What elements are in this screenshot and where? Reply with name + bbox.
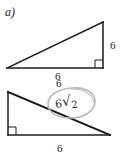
lower-triangle-right-angle-marker [8,127,16,135]
geometry-figure: a) 6 6 6 6 6√2 [0,0,124,161]
upper-triangle-hypotenuse-line [7,22,103,68]
upper-triangle-vertical-leg-label: 6 [110,40,116,51]
upper-right-triangle [7,22,103,68]
annotation-oval-icon [48,88,95,118]
figure-drawing-canvas [0,0,124,161]
upper-triangle-right-angle-marker [95,60,103,68]
lower-triangle-top-leg-label: 6 [56,78,62,89]
part-label: a) [5,6,15,18]
lower-triangle-bottom-leg-label: 6 [57,143,63,154]
